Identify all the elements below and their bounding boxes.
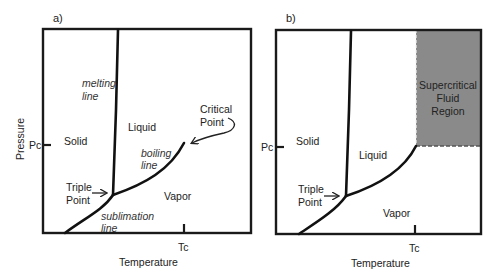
phase-diagrams: a) Pc Tc Temperature Pressure Solid Liqu… (0, 0, 496, 280)
tc-label: Tc (178, 241, 189, 253)
supercritical-label-1: Supercritical (419, 79, 477, 91)
x-axis-label-b: Temperature (351, 257, 410, 269)
panel-b: b) Supercritical Fluid Region Pc Tc Temp… (261, 12, 481, 269)
x-axis-label: Temperature (119, 256, 178, 268)
triple-point-label-2: Point (66, 194, 90, 206)
panel-b-tag: b) (286, 12, 296, 24)
panel-a-tag: a) (53, 12, 63, 24)
supercritical-label-2: Fluid (437, 92, 460, 104)
triple-point-label-b-2: Point (298, 196, 322, 208)
triple-point-label-1: Triple (66, 181, 92, 193)
region-solid-b: Solid (296, 135, 320, 147)
supercritical-label-3: Region (431, 105, 464, 117)
region-vapor-b: Vapor (383, 207, 411, 219)
melting-line-label-1: melting (82, 77, 116, 89)
region-vapor: Vapor (164, 190, 192, 202)
sublimation-line-label-1: sublimation (101, 210, 154, 222)
pc-label: Pc (29, 139, 41, 151)
tc-label-b: Tc (409, 242, 420, 254)
melting-curve (113, 30, 118, 195)
panel-a: a) Pc Tc Temperature Pressure Solid Liqu… (14, 12, 251, 268)
pc-label-b: Pc (261, 141, 273, 153)
melting-curve-b (346, 31, 351, 196)
region-solid: Solid (64, 135, 88, 147)
sublimation-line-label-2: line (101, 222, 118, 234)
triple-point-label-b-1: Triple (298, 183, 324, 195)
boiling-line-label-1: boiling (141, 147, 172, 159)
y-axis-label: Pressure (14, 118, 26, 160)
region-liquid-b: Liquid (359, 149, 387, 161)
critical-point-label-2: Point (200, 116, 224, 128)
critical-point-label-1: Critical (200, 103, 232, 115)
boiling-line-label-2: line (141, 159, 158, 171)
melting-line-label-2: line (82, 90, 99, 102)
region-liquid: Liquid (128, 121, 156, 133)
